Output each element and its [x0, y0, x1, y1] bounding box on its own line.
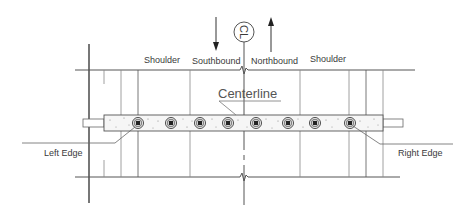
- cl-symbol-text: CL: [238, 25, 250, 39]
- left-edge-label: Left Edge: [44, 148, 83, 158]
- concrete-slab: [104, 115, 383, 131]
- northbound-arrow-icon: [268, 17, 274, 52]
- dowel-icon: [166, 118, 177, 129]
- cl-symbol: CL: [234, 22, 254, 42]
- southbound-arrow-icon: [213, 17, 219, 51]
- centerline-label: Centerline: [218, 86, 277, 101]
- dowel-layout-diagram: CL Shoulder Southbound Northbound Should…: [0, 0, 474, 217]
- northbound-label: Northbound: [251, 56, 298, 66]
- dowel-icon: [133, 118, 144, 129]
- right-dowel-tab: [383, 119, 403, 127]
- shoulder-right-label: Shoulder: [310, 54, 346, 64]
- right-edge-label: Right Edge: [398, 148, 443, 158]
- top-pavement-line: [75, 66, 415, 74]
- dowel-icon: [310, 118, 321, 129]
- dowel-icon: [283, 118, 294, 129]
- dowel-icon: [251, 118, 262, 129]
- dowel-icon: [195, 118, 206, 129]
- bottom-pavement-line: [75, 173, 400, 181]
- centerline-leader: [219, 101, 281, 115]
- dowel-icon: [223, 118, 234, 129]
- southbound-label: Southbound: [192, 56, 241, 66]
- left-dowel-tab: [83, 119, 104, 127]
- shoulder-left-label: Shoulder: [144, 55, 180, 65]
